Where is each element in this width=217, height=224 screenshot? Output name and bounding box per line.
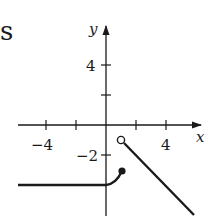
function-graph: −4 4 4 −2 x y [0,0,217,224]
y-axis-label: y [88,20,98,38]
closed-dot-endpoint [118,167,125,174]
x-tick-label-4: 4 [161,136,171,154]
x-tick-label-neg4: −4 [31,136,53,154]
x-axis-label: x [196,128,205,146]
linear-segment [124,143,194,215]
y-tick-label-4: 4 [86,57,96,75]
y-tick-label-neg2: −2 [76,147,98,165]
open-circle-endpoint [117,136,124,143]
